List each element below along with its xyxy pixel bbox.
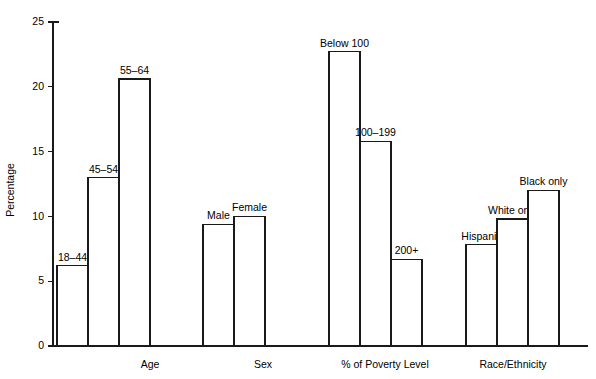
- y-tick-label-0: 0: [38, 339, 44, 351]
- y-tick-label-25: 25: [32, 15, 44, 27]
- bar-value-label: Black only: [520, 175, 569, 187]
- bar-value-label: Male: [207, 209, 230, 221]
- bar-value-label: 200+: [395, 244, 419, 256]
- bar[interactable]: [203, 224, 234, 346]
- bar[interactable]: [234, 216, 265, 346]
- bar[interactable]: [329, 52, 360, 346]
- bar[interactable]: [528, 190, 559, 346]
- bar[interactable]: [88, 178, 119, 346]
- bar[interactable]: [57, 266, 88, 346]
- bar-value-label: 55–64: [120, 64, 149, 76]
- bar-value-label: 18–44: [58, 251, 87, 263]
- bar-group-age: 18–4445–5455–64: [57, 64, 150, 346]
- bar[interactable]: [360, 141, 391, 346]
- bar-value-label: Female: [232, 201, 267, 213]
- bar-group-of-poverty-level: Below 100100–199200+: [320, 37, 422, 346]
- bar[interactable]: [119, 79, 150, 346]
- y-tick-label-10: 10: [32, 210, 44, 222]
- x-group-label: Race/Ethnicity: [479, 358, 547, 370]
- y-tick-label-5: 5: [38, 274, 44, 286]
- y-axis-title: Percentage: [4, 163, 16, 217]
- bar-value-label: 45–54: [89, 163, 118, 175]
- bar[interactable]: [497, 219, 528, 346]
- bar-value-label: Hispanic: [461, 230, 501, 242]
- y-tick-label-15: 15: [32, 145, 44, 157]
- x-group-label: % of Poverty Level: [341, 358, 429, 370]
- bar-group-race-ethnicity: HispanicWhite onlyBlack only: [461, 175, 568, 346]
- x-group-label: Age: [141, 358, 160, 370]
- bar-value-label: Below 100: [320, 37, 369, 49]
- x-group-label: Sex: [254, 358, 273, 370]
- bar-chart: 0510152025Percentage18–4445–5455–64AgeMa…: [0, 0, 596, 379]
- bar-group-sex: MaleFemale: [203, 201, 267, 346]
- bar[interactable]: [466, 245, 497, 346]
- bar[interactable]: [391, 259, 422, 346]
- y-tick-label-20: 20: [32, 80, 44, 92]
- chart-canvas: 0510152025Percentage18–4445–5455–64AgeMa…: [0, 0, 596, 379]
- bar-value-label: 100–199: [355, 126, 396, 138]
